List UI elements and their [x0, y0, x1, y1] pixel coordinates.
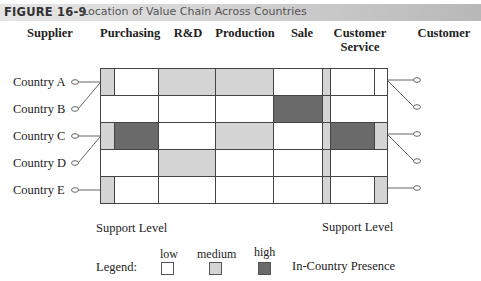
node-circle-left-e	[72, 188, 79, 193]
legend-medium-label: medium	[197, 247, 236, 262]
connector-lines	[0, 0, 481, 281]
node-circle-right-b	[414, 105, 421, 110]
legend-label: Legend:	[96, 260, 137, 275]
legend-low-swatch	[161, 262, 174, 275]
legend-presence-label: In-Country Presence	[292, 259, 395, 274]
support-level-right: Support Level	[322, 220, 393, 235]
node-circle-right-c	[414, 132, 421, 137]
node-circle-right-a	[414, 78, 421, 83]
node-circle-right-d	[414, 159, 421, 164]
node-circle-left-a	[72, 80, 79, 85]
legend-medium-swatch	[209, 262, 222, 275]
support-level-left: Support Level	[96, 221, 167, 236]
node-circle-right-e	[414, 186, 421, 191]
legend-low-label: low	[160, 247, 178, 262]
node-circle-left-c	[72, 134, 79, 139]
node-circle-left-d	[72, 161, 79, 166]
legend-high-label: high	[254, 245, 275, 260]
node-circle-left-b	[72, 107, 79, 112]
legend-high-swatch	[258, 262, 271, 275]
